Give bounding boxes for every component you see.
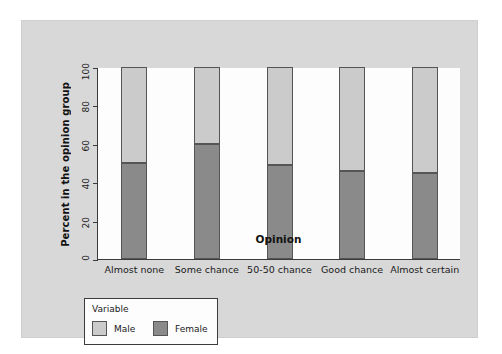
legend-title: Variable bbox=[92, 304, 128, 314]
x-axis-tick-label: Almost none bbox=[104, 264, 164, 275]
y-axis-tick-label: 0 bbox=[82, 255, 91, 261]
bar-segment-male[interactable] bbox=[121, 67, 147, 163]
x-axis-tick-label: Almost certain bbox=[390, 264, 459, 275]
bar-segment-female[interactable] bbox=[412, 173, 438, 259]
bar-stack[interactable] bbox=[412, 67, 438, 259]
legend-label: Female bbox=[175, 324, 208, 334]
legend-swatch bbox=[153, 321, 168, 336]
y-axis-tick bbox=[93, 145, 98, 146]
y-axis-tick-label: 60 bbox=[82, 140, 91, 151]
y-axis-tick bbox=[93, 68, 98, 69]
bar-segment-female[interactable] bbox=[339, 171, 365, 259]
chart-legend: Variable MaleFemale bbox=[84, 298, 218, 345]
bar-segment-male[interactable] bbox=[339, 67, 365, 171]
bar-stack[interactable] bbox=[194, 67, 220, 259]
legend-entry[interactable]: Female bbox=[153, 321, 208, 336]
x-axis-title: Opinion bbox=[97, 233, 460, 245]
plot-area: 020406080100 Almost noneSome chance50-50… bbox=[97, 68, 460, 260]
chart-panel: Percent in the opinion group 02040608010… bbox=[21, 20, 478, 338]
y-axis-tick-label: 100 bbox=[82, 63, 91, 80]
y-axis-tick-label: 20 bbox=[82, 217, 91, 228]
y-axis-tick bbox=[93, 106, 98, 107]
y-axis-tick-label: 40 bbox=[82, 178, 91, 189]
x-axis-tick-label: Good chance bbox=[321, 264, 383, 275]
bar-stack[interactable] bbox=[267, 67, 293, 259]
x-axis-tick-label: Some chance bbox=[175, 264, 239, 275]
bar-stack[interactable] bbox=[121, 67, 147, 259]
y-axis-tick bbox=[93, 183, 98, 184]
chart-figure: Percent in the opinion group 02040608010… bbox=[0, 0, 502, 354]
bar-segment-male[interactable] bbox=[412, 67, 438, 173]
legend-entry[interactable]: Male bbox=[92, 321, 135, 336]
bar-segment-male[interactable] bbox=[267, 67, 293, 165]
y-axis-tick-label: 80 bbox=[82, 101, 91, 112]
bar-segment-male[interactable] bbox=[194, 67, 220, 144]
y-axis-title: Percent in the opinion group bbox=[58, 68, 72, 260]
y-axis-tick bbox=[93, 222, 98, 223]
x-axis-tick-label: 50-50 chance bbox=[247, 264, 312, 275]
y-axis-tick bbox=[93, 260, 98, 261]
legend-label: Male bbox=[114, 324, 135, 334]
legend-swatch bbox=[92, 321, 107, 336]
y-axis-title-text: Percent in the opinion group bbox=[60, 82, 71, 247]
bar-stack[interactable] bbox=[339, 67, 365, 259]
